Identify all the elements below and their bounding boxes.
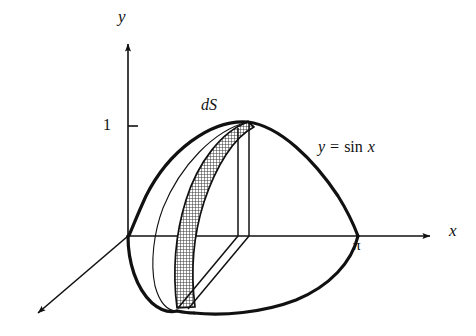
curve-equation-equals: =: [330, 138, 339, 155]
solid-of-revolution-diagram: [0, 0, 476, 336]
strip-diagonal-line-lower: [188, 236, 249, 309]
left-rim-front-arc: [128, 236, 177, 312]
z-axis-line: [38, 236, 128, 313]
left-rim-lower-arc: [177, 311, 194, 313]
curve-equation-lhs: y: [318, 138, 325, 155]
x-axis-tick-label: π: [353, 238, 361, 253]
y-axis-tick-label: 1: [103, 117, 111, 133]
surface-element-strip: [175, 122, 254, 308]
curve-equation-label: y=sinx: [318, 139, 375, 155]
x-axis-label: x: [449, 222, 457, 239]
curve-equation-variable: x: [368, 138, 375, 155]
surface-element-label: dS: [201, 97, 217, 113]
curve-equation-function: sin: [344, 138, 363, 155]
revolved-lower-silhouette: [194, 236, 358, 314]
y-axis-label: y: [118, 8, 126, 25]
figure-container: y x 1 dS π y=sinx: [0, 0, 476, 336]
axes-group: [38, 44, 430, 313]
